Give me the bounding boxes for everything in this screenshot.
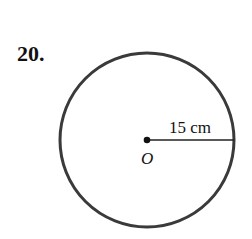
center-point xyxy=(144,137,151,144)
radius-label: 15 cm xyxy=(169,118,211,137)
center-label: O xyxy=(141,149,153,168)
circle-diagram: 15 cm O xyxy=(0,0,252,239)
